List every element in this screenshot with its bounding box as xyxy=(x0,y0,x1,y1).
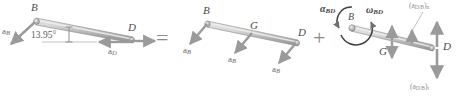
adb-t-sub: D/B xyxy=(416,85,425,91)
alpha-subscript: BD xyxy=(326,7,336,15)
point-label-b-middle: B xyxy=(203,5,210,16)
vector-label-a-d-left: aD xyxy=(108,47,117,57)
vector-sub-a-b-left: B xyxy=(6,29,10,36)
vector-sub-a-d-left: D xyxy=(112,49,117,56)
arrow-a-b-at-b xyxy=(190,24,207,44)
point-label-d-left: D xyxy=(128,22,136,33)
adb-n-sub: D/B xyxy=(415,4,424,10)
point-label-g-middle: G xyxy=(250,20,258,31)
point-label-d-middle: D xyxy=(298,27,306,38)
equals-operator: = xyxy=(156,27,168,49)
vector-sub-a-b-at-b: B xyxy=(187,48,191,55)
omega-subscript: BD xyxy=(373,8,383,16)
vector-sub-a-b-at-d: B xyxy=(276,67,280,74)
panel-middle-graphics xyxy=(190,21,300,63)
alpha-bd-label: αBD xyxy=(320,4,335,15)
vector-label-a-b-at-b: aB xyxy=(183,46,191,56)
vector-label-a-b-at-g: aB xyxy=(228,55,236,65)
point-label-b-left: B xyxy=(31,2,38,13)
adb-n-comp: n xyxy=(427,4,430,10)
component-label-adb-n: (aD/B)n xyxy=(409,2,429,11)
relative-acceleration-figure: B D aB aD 13.95° = B G D aB aB aB + αBD … xyxy=(0,0,466,99)
omega-bd-label: ωBD xyxy=(366,5,383,16)
leader-adb-n xyxy=(412,12,423,31)
plus-operator: + xyxy=(313,27,325,49)
vector-sub-a-b-at-g: B xyxy=(232,57,236,64)
pin-b-right xyxy=(349,25,355,31)
point-label-g-right: G xyxy=(379,46,387,57)
arrow-a-b-at-d xyxy=(279,43,296,63)
pin-d-right xyxy=(429,45,434,50)
arrow-a-b-at-g xyxy=(235,33,252,53)
component-label-adb-t: (aD/B)t xyxy=(410,83,429,92)
point-label-b-right: B xyxy=(348,12,354,22)
figure-graphics xyxy=(0,0,466,99)
vector-label-a-b-left: aB xyxy=(2,27,10,37)
adb-t-comp: t xyxy=(428,85,430,91)
angle-label: 13.95° xyxy=(31,31,56,41)
point-label-d-right: D xyxy=(443,41,451,52)
vector-label-a-b-at-d: aB xyxy=(272,65,280,75)
